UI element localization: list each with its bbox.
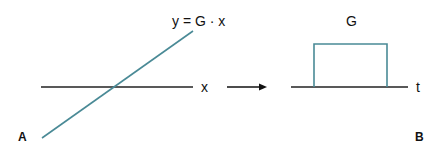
panel-label-a: A	[18, 131, 27, 143]
linear-function-line	[42, 31, 193, 138]
equation-label: y = G · x	[172, 14, 225, 28]
panel-label-b: B	[415, 131, 424, 143]
t-axis-label: t	[416, 80, 420, 94]
pulse-label: G	[346, 14, 357, 28]
x-axis-label: x	[201, 80, 208, 94]
transform-arrow	[227, 84, 267, 91]
rectangular-pulse	[314, 44, 387, 87]
